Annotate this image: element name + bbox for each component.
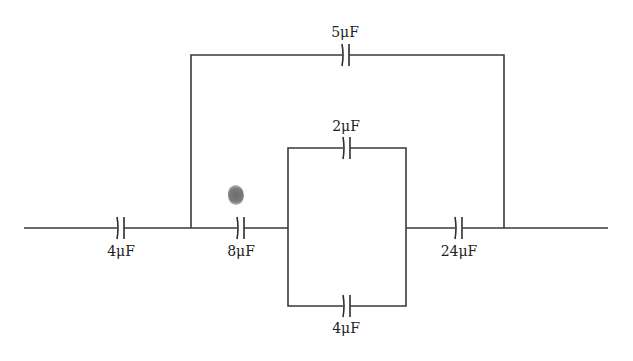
capacitor-4uF-bottom-icon bbox=[343, 295, 350, 317]
label-c4: 4μF bbox=[332, 320, 360, 336]
capacitor-2uF-icon bbox=[343, 137, 350, 159]
wire-outer-right bbox=[349, 55, 504, 228]
capacitor-8uF-icon bbox=[237, 217, 244, 239]
wire-outer-left bbox=[191, 55, 342, 228]
label-c1: 4μF bbox=[107, 243, 135, 259]
circuit-schematic bbox=[0, 0, 633, 361]
wire-inner-bottom-left bbox=[288, 228, 343, 306]
label-c6: 5μF bbox=[331, 24, 359, 40]
label-c2: 8μF bbox=[227, 243, 255, 259]
wire-inner-bottom-right bbox=[350, 228, 406, 306]
wire-inner-top-right bbox=[350, 148, 406, 228]
capacitor-24uF-icon bbox=[455, 217, 462, 239]
wire-inner-top-left bbox=[288, 148, 343, 228]
capacitor-4uF-left-icon bbox=[117, 217, 124, 239]
ink-blot bbox=[228, 185, 244, 205]
capacitor-5uF-icon bbox=[342, 44, 349, 66]
circuit-diagram: 4μF 8μF 2μF 4μF 24μF 5μF bbox=[0, 0, 633, 361]
label-c5: 24μF bbox=[441, 243, 478, 259]
label-c3: 2μF bbox=[332, 118, 360, 134]
